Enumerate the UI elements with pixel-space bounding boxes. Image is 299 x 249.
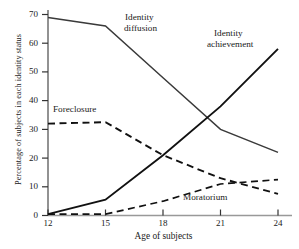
y-tick-label-60: 60 [16, 39, 38, 48]
x-tick-label-18: 18 [151, 219, 175, 228]
y-tick-label-20: 20 [16, 154, 38, 163]
x-tick-label-24: 24 [266, 219, 290, 228]
plot-canvas [0, 0, 299, 249]
y-tick-label-40: 40 [16, 96, 38, 105]
y-tick-label-0: 0 [16, 211, 38, 220]
x-tick-label-12: 12 [36, 219, 60, 228]
x-axis-title: Age of subjects [48, 231, 279, 241]
x-tick-label-21: 21 [209, 219, 233, 228]
y-axis-ticks [42, 15, 48, 216]
identity-status-line-chart: Percentage of subjects in each identity … [0, 0, 299, 249]
series-label-identity-achievement-line2: achievement [207, 39, 253, 50]
y-tick-label-10: 10 [16, 182, 38, 191]
x-tick-label-15: 15 [94, 219, 118, 228]
series-label-identity-achievement-line1: Identity [214, 28, 243, 39]
series-line-foreclosure [48, 122, 278, 194]
y-tick-label-30: 30 [16, 125, 38, 134]
series-line-identity-achievement [48, 49, 278, 214]
series-label-foreclosure: Foreclosure [53, 104, 96, 115]
series-label-moratorium: Moratorium [183, 192, 227, 203]
series-line-identity-diffusion [48, 17, 278, 152]
y-tick-label-70: 70 [16, 10, 38, 19]
series-label-identity-diffusion-line1: Identity [125, 12, 154, 23]
series-label-identity-diffusion-line2: diffusion [124, 23, 157, 34]
y-tick-label-50: 50 [16, 67, 38, 76]
